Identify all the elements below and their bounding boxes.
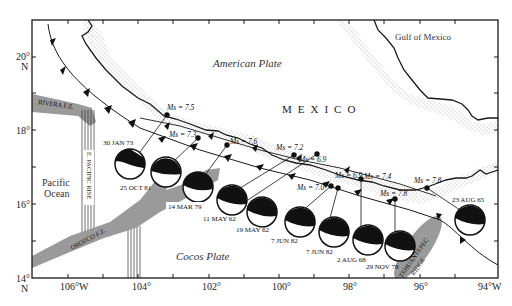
mexico-label: MEXICO bbox=[282, 103, 361, 115]
date-30jan73: 30 JAN 73 bbox=[103, 139, 134, 147]
beachball-14mar79 bbox=[183, 172, 213, 202]
lat-14-n: N bbox=[21, 283, 28, 294]
lon-102: 102° bbox=[202, 281, 221, 292]
mag-7-2: Ms = 7.2 bbox=[275, 143, 304, 152]
american-plate-label: American Plate bbox=[212, 57, 282, 69]
mag-7-8b: Ms = 7.8 bbox=[413, 176, 442, 185]
mag-7-4: Ms = 7.4 bbox=[363, 172, 392, 181]
date-23aug65: 23 AUG 65 bbox=[452, 196, 485, 204]
date-19may62: 19 MAY 62 bbox=[236, 226, 269, 234]
lon-96: 96° bbox=[414, 281, 428, 292]
date-29nov78: 29 NOV 78 bbox=[366, 263, 399, 271]
gulf-label: Gulf of Mexico bbox=[395, 32, 451, 42]
latitude-labels: 20° N 18° 16° 14° N bbox=[16, 51, 30, 294]
beachball-7jun82a bbox=[285, 207, 315, 237]
lon-98: 98° bbox=[343, 281, 357, 292]
lat-18: 18° bbox=[16, 125, 30, 136]
mag-7-0: Ms = 7.0 bbox=[296, 183, 325, 192]
longitude-labels: 106°W 104° 102° 100° 98° 96° 94°W bbox=[60, 281, 502, 292]
epr-label: E. PACIFIC RISE bbox=[86, 152, 93, 199]
date-2aug68: 2 AUG 68 bbox=[337, 256, 366, 264]
beachball-25oct81 bbox=[151, 157, 181, 187]
mag-6-9b: Ms = 6.9 bbox=[334, 171, 363, 180]
lon-104: 104° bbox=[132, 281, 151, 292]
beachball-19may62 bbox=[247, 197, 277, 227]
date-25oct81: 25 OCT 81 bbox=[120, 184, 152, 192]
beachball-30jan73 bbox=[115, 149, 145, 179]
cocos-plate-label: Cocos Plate bbox=[176, 250, 230, 262]
tectonic-map: RIVERA F.Z. E. PACIFIC RISE OROZCO F.Z. … bbox=[0, 0, 512, 306]
mag-7-5: Ms = 7.5 bbox=[166, 103, 195, 112]
date-7jun82a: 7 JUN 82 bbox=[271, 237, 298, 245]
lon-100: 100° bbox=[272, 281, 291, 292]
beachball-7jun82b bbox=[319, 217, 349, 247]
lon-94: 94°W bbox=[478, 281, 502, 292]
beachball-29nov78 bbox=[385, 231, 415, 261]
date-11may62: 11 MAY 62 bbox=[203, 215, 236, 223]
beachball-2aug68 bbox=[353, 225, 383, 255]
ocean-label: Ocean bbox=[44, 188, 70, 199]
lon-106: 106°W bbox=[60, 281, 89, 292]
beachball-23aug65 bbox=[455, 205, 485, 235]
mag-7-8a: Ms = 7.8 bbox=[379, 189, 408, 198]
mag-7-6: Ms = 7.6 bbox=[229, 137, 258, 146]
mag-7-3: Ms = 7.3 bbox=[168, 130, 197, 139]
date-14mar79: 14 MAR 79 bbox=[168, 203, 202, 211]
mag-6-9a: Ms = 6.9 bbox=[298, 155, 327, 164]
lat-16: 16° bbox=[16, 199, 30, 210]
beachball-11may62 bbox=[217, 185, 247, 215]
pacific-label: Pacific bbox=[42, 177, 70, 188]
lat-20-n: N bbox=[21, 61, 28, 72]
date-7jun82b: 7 JUN 82 bbox=[306, 248, 333, 256]
